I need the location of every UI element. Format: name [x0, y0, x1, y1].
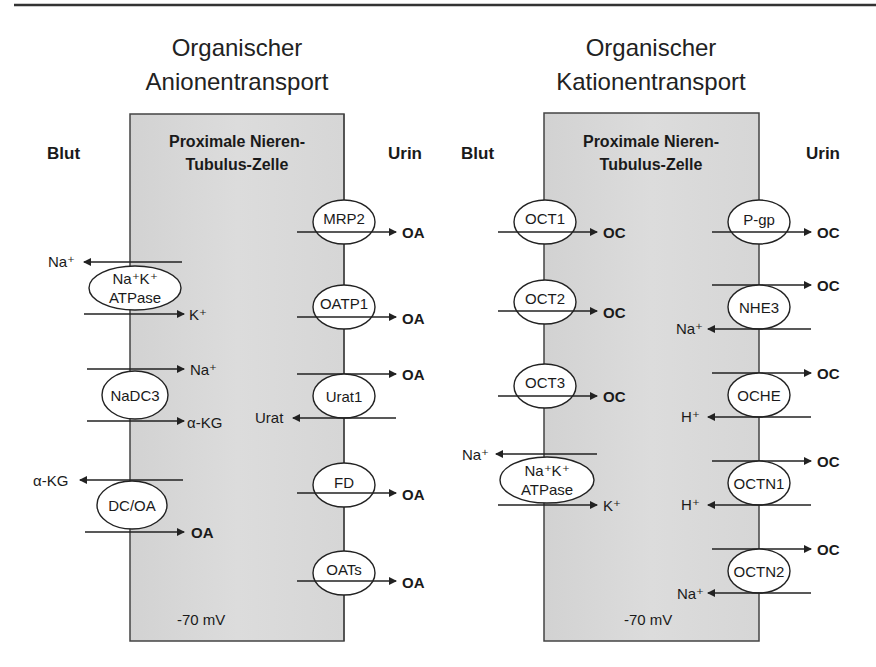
panel-cation-transport: Organischer Kationentransport Blut Urin …	[461, 34, 840, 641]
cell-title-line1: Proximale Nieren-	[583, 133, 719, 150]
transporter-name: OCT3	[525, 374, 565, 391]
substrate-label: OC	[817, 224, 840, 241]
substrate-label: Na⁺	[48, 253, 75, 270]
substrate-label: Na⁺	[676, 320, 703, 337]
substrate-label: α-KG	[33, 472, 68, 489]
blood-label: Blut	[461, 144, 494, 163]
substrate-label: OC	[603, 304, 626, 321]
substrate-label: H⁺	[681, 496, 700, 513]
substrate-label: K⁺	[603, 497, 621, 514]
substrate-label: OA	[402, 366, 425, 383]
cell-title-line2: Tubulus-Zelle	[186, 156, 289, 173]
transporter-name: OATs	[326, 561, 362, 578]
transporter-name: Urat1	[326, 388, 363, 405]
substrate-label: OC	[603, 224, 626, 241]
transporter-name: NaDC3	[110, 387, 159, 404]
transporter-name: DC/OA	[108, 497, 156, 514]
substrate-label: Na⁺	[190, 361, 217, 378]
substrate-label: OC	[817, 365, 840, 382]
transporter-name: FD	[334, 474, 354, 491]
transporter-name: Na⁺K⁺	[524, 462, 569, 479]
transporter-name-line2: ATPase	[521, 481, 573, 498]
transporter-name: OCTN1	[734, 475, 785, 492]
transporter-name: P-gp	[743, 211, 775, 228]
panel-title-line1: Organischer	[586, 34, 717, 61]
blood-label: Blut	[47, 144, 80, 163]
substrate-label: OC	[817, 541, 840, 558]
panel-title-line2: Anionentransport	[146, 68, 329, 95]
tubule-cell	[130, 114, 344, 641]
substrate-label: H⁺	[681, 408, 700, 425]
substrate-label: Na⁺	[677, 585, 704, 602]
substrate-label: OC	[603, 388, 626, 405]
transporter-name: OATP1	[320, 295, 368, 312]
substrate-label: OA	[402, 574, 425, 591]
transporter-name: Na⁺K⁺	[112, 270, 157, 287]
substrate-label: OA	[402, 486, 425, 503]
transporter-name: MRP2	[323, 210, 365, 227]
transporter-name: OCT1	[525, 210, 565, 227]
substrate-label: OC	[817, 277, 840, 294]
transport-diagram: Organischer Anionentransport Blut Urin P…	[0, 0, 876, 667]
urine-label: Urin	[388, 144, 422, 163]
transporter-name: OCHE	[737, 387, 780, 404]
urine-label: Urin	[806, 144, 840, 163]
substrate-label: OA	[402, 224, 425, 241]
panel-title-line2: Kationentransport	[556, 68, 746, 95]
substrate-label: OA	[402, 310, 425, 327]
substrate-label: OC	[817, 453, 840, 470]
substrate-label: Na⁺	[462, 446, 489, 463]
substrate-label: Urat	[255, 409, 284, 426]
panel-title-line1: Organischer	[172, 34, 303, 61]
substrate-label: α-KG	[187, 414, 222, 431]
membrane-potential: -70 mV	[624, 611, 672, 628]
membrane-potential: -70 mV	[177, 611, 225, 628]
substrate-label: K⁺	[189, 306, 207, 323]
transporter-name: OCTN2	[734, 563, 785, 580]
tubule-cell	[544, 113, 759, 641]
cell-title-line1: Proximale Nieren-	[169, 133, 305, 150]
panel-anion-transport: Organischer Anionentransport Blut Urin P…	[33, 34, 425, 641]
transporter-name-line2: ATPase	[109, 289, 161, 306]
cell-title-line2: Tubulus-Zelle	[600, 156, 703, 173]
substrate-label: OA	[191, 524, 214, 541]
transporter-name: NHE3	[739, 299, 779, 316]
transporter-name: OCT2	[525, 290, 565, 307]
